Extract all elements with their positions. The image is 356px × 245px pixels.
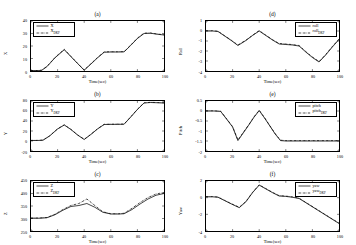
- series-line-x: [31, 33, 164, 70]
- ytick-label-e: -2: [179, 150, 202, 155]
- xtick-label-d: 20: [223, 74, 241, 79]
- series-line-x-dkf: [31, 33, 164, 71]
- legend-row: ZDKF: [36, 190, 72, 195]
- ytick-label-a: 20: [4, 44, 27, 49]
- ytick-label-d: 1: [179, 18, 202, 23]
- legend-row: X: [36, 24, 72, 29]
- legend-line-sample: [298, 191, 311, 195]
- legend-b: YYDKF: [33, 102, 75, 117]
- ylabel-c: Z: [3, 212, 8, 215]
- xtick-label-e: 20: [223, 154, 241, 159]
- ytick-label-b: 40: [4, 118, 27, 123]
- ytick-label-f: -4: [179, 230, 202, 235]
- xtick-label-c: 0: [21, 234, 39, 239]
- xtick-label-d: 60: [277, 74, 295, 79]
- figure-canvas: (a)010203040020406080100XTime(sec)XXDKF(…: [0, 0, 356, 245]
- ytick-label-e: -1: [179, 129, 202, 134]
- xlabel-a: Time(sec): [30, 79, 165, 84]
- xtick-label-a: 100: [156, 74, 174, 79]
- ytick-label-c: 250: [4, 230, 27, 235]
- series-line-z: [31, 194, 164, 219]
- ytick-label-e: -1.5: [179, 139, 202, 144]
- xtick-label-a: 0: [21, 74, 39, 79]
- ytick-label-b: 20: [4, 129, 27, 134]
- legend-line-sample: [298, 184, 311, 188]
- xtick-label-f: 0: [196, 234, 214, 239]
- xtick-label-d: 100: [331, 74, 349, 79]
- panel-title-b: (b): [30, 91, 165, 97]
- ytick-label-a: 30: [4, 31, 27, 36]
- xtick-label-b: 60: [102, 154, 120, 159]
- xtick-label-f: 60: [277, 234, 295, 239]
- legend-line-sample: [36, 31, 49, 35]
- legend-label: ZDKF: [51, 189, 60, 195]
- ytick-label-a: 10: [4, 57, 27, 62]
- xtick-label-a: 20: [48, 74, 66, 79]
- ytick-label-d: -3: [179, 59, 202, 64]
- ylabel-e: Pitch: [178, 126, 183, 135]
- xtick-label-d: 0: [196, 74, 214, 79]
- ytick-label-c: 450: [4, 178, 27, 183]
- ytick-label-c: 400: [4, 191, 27, 196]
- legend-row: rollDKF: [298, 30, 334, 35]
- xtick-label-b: 100: [156, 154, 174, 159]
- legend-row: yawDKF: [298, 190, 334, 195]
- xtick-label-a: 40: [75, 74, 93, 79]
- xtick-label-c: 80: [129, 234, 147, 239]
- ylabel-a: X: [3, 52, 8, 55]
- ylabel-f: Yaw: [178, 207, 183, 215]
- ytick-label-c: 350: [4, 204, 27, 209]
- panel-title-f: (f): [205, 171, 340, 177]
- ytick-label-f: 2: [179, 178, 202, 183]
- legend-row: Z: [36, 184, 72, 189]
- legend-label: XDKF: [51, 29, 60, 35]
- xtick-label-f: 100: [331, 234, 349, 239]
- legend-label: rollDKF: [313, 29, 325, 35]
- xlabel-d: Time(sec): [205, 79, 340, 84]
- legend-line-sample: [298, 24, 311, 28]
- legend-line-sample: [298, 104, 311, 108]
- legend-label: YDKF: [51, 109, 60, 115]
- xtick-label-f: 40: [250, 234, 268, 239]
- xtick-label-a: 60: [102, 74, 120, 79]
- xlabel-f: Time(sec): [205, 239, 340, 244]
- legend-line-sample: [36, 191, 49, 195]
- legend-c: ZZDKF: [33, 182, 75, 197]
- ytick-label-e: 0: [179, 108, 202, 113]
- ytick-label-a: 0: [4, 70, 27, 75]
- panel-title-e: (e): [205, 91, 340, 97]
- legend-line-sample: [36, 184, 49, 188]
- xtick-label-e: 40: [250, 154, 268, 159]
- ylabel-b: Y: [3, 132, 8, 135]
- xtick-label-f: 20: [223, 234, 241, 239]
- xtick-label-d: 40: [250, 74, 268, 79]
- legend-line-sample: [298, 111, 311, 115]
- legend-f: yawyawDKF: [295, 182, 337, 197]
- xtick-label-c: 40: [75, 234, 93, 239]
- legend-a: XXDKF: [33, 22, 75, 37]
- xtick-label-b: 0: [21, 154, 39, 159]
- legend-row: YDKF: [36, 110, 72, 115]
- legend-line-sample: [36, 24, 49, 28]
- ytick-label-d: -1: [179, 38, 202, 43]
- ytick-label-f: -2: [179, 212, 202, 217]
- xlabel-e: Time(sec): [205, 159, 340, 164]
- ylabel-d: Roll: [178, 47, 183, 55]
- xtick-label-e: 60: [277, 154, 295, 159]
- ytick-label-c: 300: [4, 217, 27, 222]
- legend-label: pitchDKF: [313, 109, 328, 115]
- xtick-label-f: 80: [304, 234, 322, 239]
- ytick-label-f: 0: [179, 195, 202, 200]
- panel-title-a: (a): [30, 11, 165, 17]
- xtick-label-d: 80: [304, 74, 322, 79]
- xtick-label-a: 80: [129, 74, 147, 79]
- ytick-label-b: -20: [4, 150, 27, 155]
- xtick-label-c: 20: [48, 234, 66, 239]
- ytick-label-e: -0.5: [179, 118, 202, 123]
- legend-row: pitchDKF: [298, 110, 334, 115]
- ytick-label-b: 60: [4, 108, 27, 113]
- ytick-label-d: -4: [179, 70, 202, 75]
- legend-d: rollrollDKF: [295, 22, 337, 37]
- xtick-label-b: 20: [48, 154, 66, 159]
- ytick-label-d: -2: [179, 49, 202, 54]
